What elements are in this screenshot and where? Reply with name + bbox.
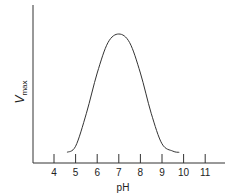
y-axis-title-sub: max (20, 80, 29, 95)
x-tick-label: 9 (159, 167, 165, 178)
x-axis-title: pH (117, 182, 130, 193)
x-tick-label: 7 (116, 167, 122, 178)
vmax-curve (67, 34, 179, 152)
y-axis-title: Vmax (13, 80, 29, 103)
chart: 4567891011 pH Vmax (0, 0, 235, 196)
x-tick-label: 5 (73, 167, 79, 178)
svg-text:Vmax: Vmax (13, 80, 29, 103)
x-tick-label: 6 (94, 167, 100, 178)
x-tick-label: 4 (51, 167, 57, 178)
x-tick-label: 8 (138, 167, 144, 178)
x-tick-label: 11 (200, 167, 211, 178)
x-tick-label: 10 (178, 167, 190, 178)
x-ticks: 4567891011 (51, 154, 211, 178)
